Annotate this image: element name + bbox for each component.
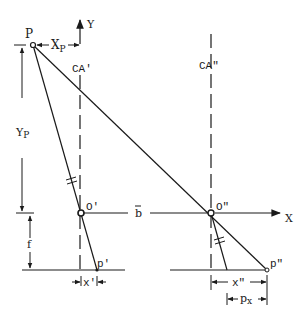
label-ca-right: CA": [199, 60, 219, 72]
label-parallax: px: [240, 292, 252, 306]
ray-p-to-p-left: [33, 45, 97, 270]
label-xp: XP: [51, 38, 66, 54]
stereo-parallax-diagram: P XP Y CA' CA" YP O' O" b X f p' p" x' x…: [0, 0, 306, 316]
origin-right-marker: [208, 210, 214, 216]
point-p-marker: [31, 43, 36, 48]
label-baseline: b: [135, 207, 142, 220]
label-focal-length: f: [27, 238, 32, 251]
label-p-left: p': [97, 258, 110, 270]
label-x-axis: X: [285, 212, 293, 225]
p-right-marker: [265, 268, 269, 272]
label-origin-right: O": [216, 201, 229, 213]
origin-left-marker: [78, 210, 84, 216]
label-x-right: x": [232, 277, 245, 289]
ray-p-to-p-right: [33, 45, 267, 270]
label-x-left: x': [83, 277, 96, 289]
label-p-right: p": [270, 258, 283, 270]
label-origin-left: O': [86, 201, 99, 213]
label-point-p: P: [25, 27, 33, 41]
label-yp: YP: [15, 126, 29, 140]
label-y-axis: Y: [86, 18, 95, 31]
label-ca-left: CA': [72, 63, 92, 75]
